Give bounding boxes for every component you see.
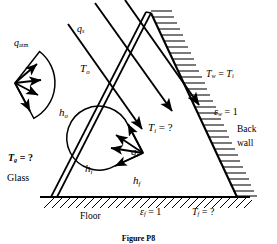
label-q-atm: qatm [14, 38, 28, 49]
label-h-f: hf [133, 175, 140, 187]
label-T-o: To [80, 63, 90, 75]
label-floor: Floor [80, 212, 101, 222]
label-epsilon-f: εf = 1 [140, 207, 161, 218]
label-q-i-minus: qi− [131, 146, 142, 158]
label-glass: Glass [7, 173, 29, 183]
label-epsilon-w: εw = 1 [214, 107, 238, 118]
diagram-svg [0, 0, 277, 244]
q-atm-fan [15, 52, 55, 119]
label-h-o: ho [59, 107, 68, 119]
label-q-s: qs [77, 24, 84, 35]
label-h-i: hi [85, 163, 92, 175]
label-back-wall-line1: Back [237, 125, 257, 135]
label-back-wall-line2: wall [237, 139, 253, 149]
label-T-w: Tw = Ti [206, 69, 234, 80]
glass-pane [51, 12, 151, 197]
label-T-f: Tf = ? [192, 207, 214, 218]
label-T-i: Ti = ? [148, 122, 173, 134]
figure-caption: Figure P8 [0, 234, 277, 243]
back-wall-line [151, 13, 237, 197]
label-T-g: Tg = ? [8, 153, 33, 164]
figure-container: qatm qs To ho Tg = ? Glass hi qi− Ti = ?… [0, 0, 277, 244]
